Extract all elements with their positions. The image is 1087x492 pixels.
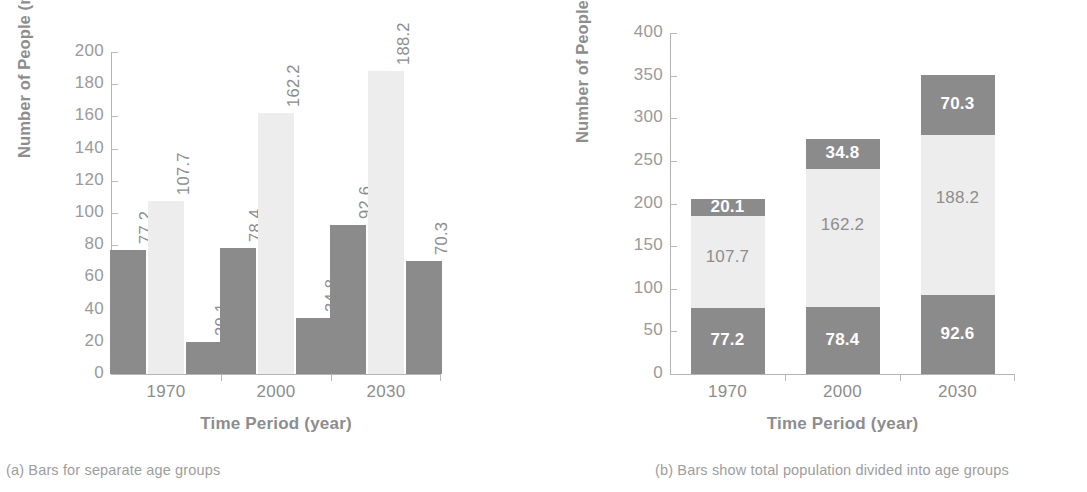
y-tick-label: 180 [75, 73, 104, 93]
figure-b-caption: (b) Bars show total population divided i… [655, 462, 1009, 478]
y-tick-mark [670, 204, 677, 205]
segment-value-label: 77.2 [691, 330, 765, 350]
x-tick-label: 1970 [670, 382, 785, 402]
y-tick-mark [670, 33, 677, 34]
y-tick-label: 300 [634, 107, 663, 127]
y-tick-mark [111, 52, 118, 53]
bar [148, 201, 184, 374]
x-tick-mark [1014, 374, 1015, 381]
y-axis-title: Number of People (millions) [569, 0, 595, 197]
y-tick-mark [670, 331, 677, 332]
y-tick-label: 100 [634, 278, 663, 298]
x-tick-label: 2000 [221, 382, 331, 402]
y-tick-label: 350 [634, 65, 663, 85]
y-tick-mark [111, 149, 118, 150]
x-tick-label: 2030 [331, 382, 441, 402]
y-tick-label: 40 [84, 299, 104, 319]
segment-value-label: 20.1 [691, 197, 765, 217]
bar [258, 113, 294, 374]
x-tick-mark [785, 374, 786, 381]
x-tick-label: 2030 [900, 382, 1015, 402]
plot-area-a: 0204060801001201401601802001970200020307… [111, 52, 441, 374]
bar-segment: 92.6 [921, 295, 995, 374]
y-tick-label: 200 [634, 193, 663, 213]
x-axis-title: Time Period (year) [670, 414, 1015, 434]
bar [330, 225, 366, 374]
x-tick-label: 2000 [785, 382, 900, 402]
x-tick-mark [221, 374, 222, 381]
bar [406, 261, 442, 374]
segment-value-label: 34.8 [806, 143, 880, 163]
x-axis-line [111, 374, 441, 375]
y-tick-label: 0 [94, 363, 104, 383]
segment-value-label: 70.3 [921, 94, 995, 114]
y-tick-mark [670, 161, 677, 162]
bar-segment: 162.2 [806, 169, 880, 307]
bar-segment: 77.2 [691, 308, 765, 374]
segment-value-label: 188.2 [921, 188, 995, 208]
bar [186, 342, 222, 374]
x-axis-line [670, 374, 1015, 375]
figure-a-grouped-bar-chart: Number of People (millions) 020406080100… [0, 0, 543, 492]
y-tick-mark [670, 76, 677, 77]
segment-value-label: 92.6 [921, 324, 995, 344]
y-tick-label: 80 [84, 234, 104, 254]
y-tick-label: 150 [634, 235, 663, 255]
y-tick-label: 100 [75, 202, 104, 222]
bar-value-label: 107.7 [174, 152, 193, 195]
bar-segment: 107.7 [691, 216, 765, 308]
bar [220, 248, 256, 374]
figure-a-caption: (a) Bars for separate age groups [6, 462, 220, 478]
segment-value-label: 162.2 [806, 215, 880, 235]
bar-segment: 78.4 [806, 307, 880, 374]
bar [368, 71, 404, 374]
x-tick-mark [331, 374, 332, 381]
bar [110, 250, 146, 374]
y-tick-mark [670, 374, 677, 375]
figure-b-stacked-bar-chart: Number of People (millions) 050100150200… [544, 0, 1087, 492]
y-tick-label: 200 [75, 41, 104, 61]
y-tick-mark [111, 181, 118, 182]
y-tick-label: 120 [75, 170, 104, 190]
bar-value-label: 162.2 [284, 64, 303, 107]
x-tick-mark [900, 374, 901, 381]
segment-value-label: 107.7 [691, 247, 765, 267]
y-tick-label: 0 [653, 363, 663, 383]
x-tick-label: 1970 [111, 382, 221, 402]
y-tick-label: 50 [643, 320, 663, 340]
y-tick-label: 400 [634, 22, 663, 42]
y-tick-label: 250 [634, 150, 663, 170]
y-tick-mark [670, 246, 677, 247]
y-tick-label: 60 [84, 266, 104, 286]
bar-segment: 34.8 [806, 139, 880, 169]
bar-value-label: 70.3 [432, 221, 451, 254]
y-tick-label: 20 [84, 331, 104, 351]
plot-area-b: 05010015020025030035040019702000203077.2… [670, 33, 1015, 374]
bar [296, 318, 332, 374]
x-tick-mark [440, 374, 441, 381]
y-tick-mark [111, 245, 118, 246]
bar-segment: 70.3 [921, 75, 995, 135]
y-tick-mark [111, 84, 118, 85]
x-axis-title: Time Period (year) [111, 414, 441, 434]
bar-segment: 188.2 [921, 135, 995, 295]
y-tick-label: 160 [75, 105, 104, 125]
y-tick-mark [111, 213, 118, 214]
bar-value-label: 188.2 [394, 22, 413, 65]
y-tick-mark [111, 374, 118, 375]
segment-value-label: 78.4 [806, 330, 880, 350]
y-tick-mark [670, 289, 677, 290]
y-tick-mark [670, 118, 677, 119]
bar-segment: 20.1 [691, 199, 765, 216]
y-tick-mark [111, 116, 118, 117]
y-axis-title: Number of People (millions) [11, 0, 37, 212]
y-tick-label: 140 [75, 138, 104, 158]
